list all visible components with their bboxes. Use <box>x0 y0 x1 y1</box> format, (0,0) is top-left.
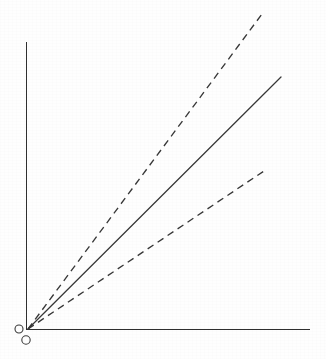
ray-group <box>28 14 281 329</box>
figure-canvas <box>0 0 326 359</box>
origin-marker-below-icon <box>22 336 30 344</box>
origin-marker-left-icon <box>15 325 23 333</box>
lower-bound-ray <box>28 169 267 329</box>
upper-bound-ray <box>28 14 262 329</box>
central-ray <box>28 77 281 329</box>
figure-container <box>0 0 326 359</box>
axes-group <box>26 42 310 330</box>
origin-markers-group <box>15 325 30 344</box>
